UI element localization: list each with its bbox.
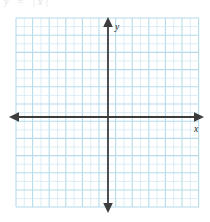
y-axis: [103, 17, 113, 213]
y-axis-arrow-down: [103, 203, 113, 213]
x-axis-arrow-left: [9, 112, 19, 122]
coordinate-plane-figure: y x: [0, 0, 210, 222]
x-axis: [9, 112, 204, 122]
page-canvas: y = |x|: [0, 0, 210, 222]
x-axis-label: x: [193, 124, 199, 134]
y-axis-label: y: [114, 22, 120, 32]
coordinate-plane-svg: y x: [0, 0, 210, 222]
